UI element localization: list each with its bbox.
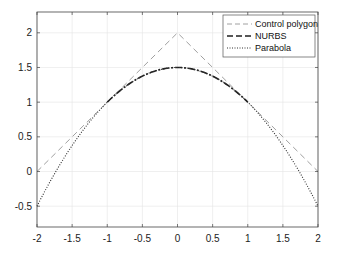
chart: -2-1.5-1-0.500.511.52 -0.500.511.52 Cont… xyxy=(0,0,337,254)
y-tick-label: 0.5 xyxy=(18,131,32,142)
legend: Control polygon NURBS Parabola xyxy=(223,15,318,57)
x-tick-label: 2 xyxy=(315,233,321,244)
y-tick-label: 1.5 xyxy=(18,62,32,73)
x-tick-label: 1.5 xyxy=(276,233,290,244)
y-tick-label: -0.5 xyxy=(15,201,33,212)
x-tick-label: 0.5 xyxy=(206,233,220,244)
legend-label-parabola: Parabola xyxy=(255,43,291,53)
x-tick-label: 1 xyxy=(245,233,251,244)
y-tick-label: 1 xyxy=(26,97,32,108)
x-tick-label: -1 xyxy=(103,233,112,244)
legend-label-control-polygon: Control polygon xyxy=(255,19,318,29)
legend-label-nurbs: NURBS xyxy=(255,31,287,41)
x-tick-label: 0 xyxy=(175,233,181,244)
y-tick-labels: -0.500.511.52 xyxy=(15,27,33,211)
x-tick-label: -0.5 xyxy=(134,233,152,244)
x-tick-labels: -2-1.5-1-0.500.511.52 xyxy=(33,233,322,244)
y-tick-label: 2 xyxy=(26,27,32,38)
y-tick-label: 0 xyxy=(26,166,32,177)
x-tick-label: -1.5 xyxy=(64,233,82,244)
x-tick-label: -2 xyxy=(33,233,42,244)
